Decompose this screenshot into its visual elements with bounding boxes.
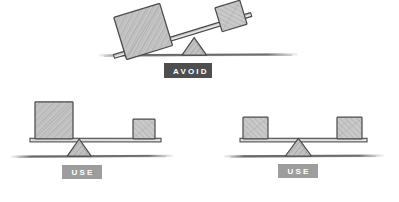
use-badge-left: USE — [62, 165, 102, 179]
small-block-use-left-scene — [133, 119, 155, 139]
avoid-badge: AVOID — [164, 63, 212, 78]
balance-scales-sketch — [0, 0, 399, 202]
scene-avoid — [100, 0, 297, 59]
small-block-left-equal — [243, 117, 268, 139]
small-block-right-equal — [337, 117, 362, 139]
large-block-use-left — [35, 102, 73, 139]
scene-use-equal — [225, 117, 383, 157]
illustration-canvas: AVOID USE USE — [0, 0, 399, 202]
use-badge-right: USE — [278, 164, 318, 178]
scene-use-lever — [12, 102, 173, 158]
large-block-avoid — [114, 3, 173, 59]
small-block-avoid — [215, 0, 247, 32]
ground-line-use-left — [12, 156, 173, 158]
fulcrum-avoid — [182, 38, 207, 56]
